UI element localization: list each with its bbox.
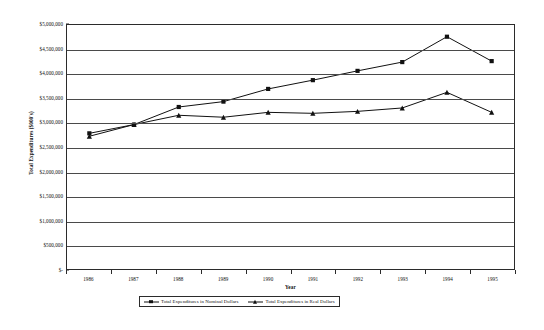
x-tick-label: 1990 [263,276,273,282]
expenditures-line-chart: Total Expenditures ($000's) $-$500,000$1… [0,0,544,330]
x-tick-mark [291,270,292,274]
data-point-triangle [444,90,449,95]
y-tick-label: $5,000,000 [40,21,63,27]
x-tick-mark [515,270,516,274]
legend-label: Total Expenditures in Real Dollars [265,299,334,304]
legend-marker-square-icon [144,299,159,305]
gridline [67,173,514,174]
x-tick-label: 1986 [83,276,93,282]
x-tick-mark [335,270,336,274]
x-tick-label: 1994 [442,276,452,282]
y-tick-label: $1,500,000 [40,193,63,199]
gridline [67,222,514,223]
x-tick-label: 1987 [128,276,138,282]
x-tick-mark [425,270,426,274]
gridline [67,246,514,247]
gridline [67,123,514,124]
x-tick-mark [66,270,67,274]
y-axis-tick-labels: $-$500,000$1,000,000$1,500,000$2,000,000… [22,24,66,270]
y-tick-label: $2,500,000 [40,144,63,150]
data-point-square [177,105,181,109]
series-line-1 [89,37,491,134]
x-axis-title: Year [66,284,515,290]
y-tick-label: $1,000,000 [40,218,63,224]
y-tick-label: $2,000,000 [40,169,63,175]
data-point-square [355,69,359,73]
x-tick-label: 1989 [218,276,228,282]
gridline [67,50,514,51]
series-plot [67,25,514,269]
x-tick-label: 1992 [353,276,363,282]
legend-label: Total Expenditures in Nominal Dollars [161,299,238,304]
data-point-triangle [489,110,494,115]
gridline [67,148,514,149]
x-tick-mark [246,270,247,274]
y-tick-label: $500,000 [43,242,63,248]
legend-entry-2[interactable]: Total Expenditures in Real Dollars [248,299,334,305]
x-tick-label: 1993 [398,276,408,282]
x-tick-mark [470,270,471,274]
x-tick-label: 1988 [173,276,183,282]
y-tick-label: $4,500,000 [40,46,63,52]
y-tick-label: $3,500,000 [40,95,63,101]
x-tick-label: 1995 [487,276,497,282]
x-tick-label: 1991 [308,276,318,282]
gridline [67,99,514,100]
gridline [67,197,514,198]
x-tick-mark [111,270,112,274]
plot-area [66,24,515,270]
y-tick-label: $4,000,000 [40,70,63,76]
data-point-square [221,100,225,104]
x-tick-mark [156,270,157,274]
data-point-square [311,78,315,82]
x-tick-mark [380,270,381,274]
data-point-square [400,60,404,64]
y-tick-label: $- [59,267,63,273]
chart-legend: Total Expenditures in Nominal DollarsTot… [139,296,340,307]
data-point-square [266,87,270,91]
legend-marker-triangle-icon [248,299,263,305]
data-point-square [445,35,449,39]
data-point-square [490,59,494,63]
y-tick-label: $3,000,000 [40,119,63,125]
legend-entry-1[interactable]: Total Expenditures in Nominal Dollars [144,299,238,305]
gridline [67,74,514,75]
x-tick-mark [201,270,202,274]
